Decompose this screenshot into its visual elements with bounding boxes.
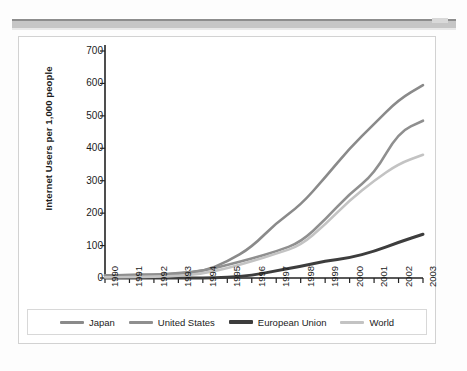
axis-ticks [100,51,423,283]
legend-label: European Union [258,317,327,328]
data-series [105,85,423,278]
series-line-world [105,155,423,278]
x-tick-label: 1990 [109,266,120,287]
x-tick-label: 1992 [158,266,169,287]
legend-item-japan[interactable]: Japan [60,317,115,328]
x-tick-label: 2002 [403,266,414,287]
x-tick-label: 1994 [207,266,218,287]
chart-svg [19,37,437,305]
header-band [12,18,456,30]
x-tick-label: 1997 [280,266,291,287]
legend-swatch-icon [60,321,84,324]
legend-swatch-icon [129,321,153,324]
chart-card: Internet Users per 1,000 people 01002003… [18,36,436,344]
legend-label: Japan [89,317,115,328]
legend-item-european-union[interactable]: European Union [229,317,327,328]
legend-label: United States [158,317,215,328]
header-corner-mark [432,18,448,23]
x-tick-label: 2001 [378,266,389,287]
chart-legend: JapanUnited StatesEuropean UnionWorld [27,309,427,335]
axis-lines [105,45,423,278]
x-tick-label: 1996 [256,266,267,287]
x-tick-label: 1999 [329,266,340,287]
legend-item-united-states[interactable]: United States [129,317,215,328]
x-tick-label: 1991 [133,266,144,287]
legend-label: World [369,317,394,328]
legend-item-world[interactable]: World [340,317,394,328]
legend-swatch-icon [229,320,253,324]
plot-area: Internet Users per 1,000 people 01002003… [19,37,437,305]
legend-swatch-icon [340,321,364,324]
x-tick-label: 2003 [427,266,438,287]
x-tick-label: 2000 [354,266,365,287]
x-tick-label: 1995 [231,266,242,287]
x-tick-label: 1993 [182,266,193,287]
page-background: Internet Users per 1,000 people 01002003… [0,0,467,371]
x-tick-label: 1998 [305,266,316,287]
